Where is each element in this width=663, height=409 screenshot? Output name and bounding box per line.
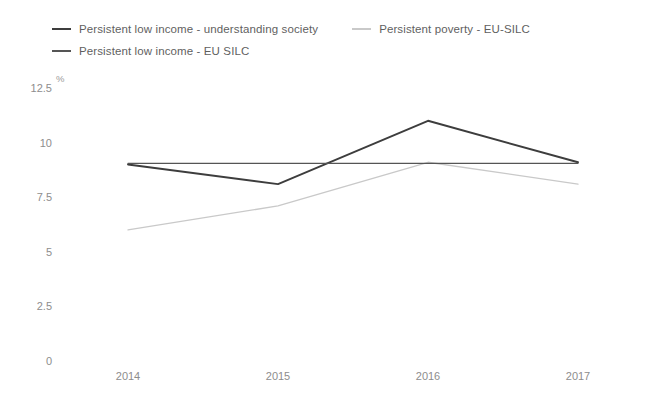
series-lines <box>0 0 663 409</box>
plot-area: % 12.5107.552.50 2014201520162017 <box>0 0 663 409</box>
line-chart: Persistent low income - understanding so… <box>0 0 663 409</box>
